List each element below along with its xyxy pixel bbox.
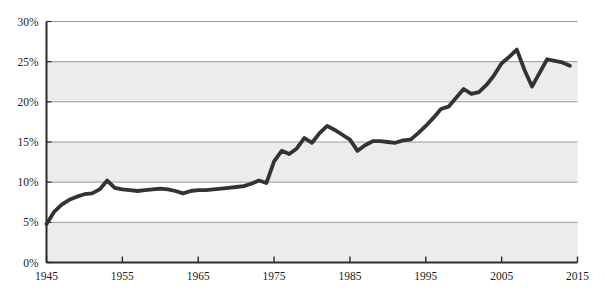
x-tick-label-2015: 2015 [566, 270, 589, 282]
gridline-group [47, 22, 578, 223]
x-tick-label-1965: 1965 [187, 270, 210, 282]
x-axis-tick-labels: 19451955196519751985199520052015 [35, 270, 589, 282]
y-tick-label-25: 25% [17, 56, 39, 68]
y-tick-label-20: 20% [17, 96, 39, 108]
x-tick-label-1985: 1985 [338, 270, 361, 282]
x-tick-label-1945: 1945 [35, 270, 58, 282]
y-tick-label-30: 30% [17, 16, 39, 28]
band-1 [47, 142, 578, 182]
y-tick-label-0: 0% [23, 257, 39, 269]
line-chart: 0%5%10%15%20%25%30% 19451955196519751985… [0, 0, 605, 298]
y-tick-label-5: 5% [23, 216, 39, 228]
x-tick-label-1975: 1975 [263, 270, 286, 282]
chart-container: 0%5%10%15%20%25%30% 19451955196519751985… [0, 0, 605, 298]
y-tick-label-10: 10% [17, 176, 39, 188]
x-tick-label-2005: 2005 [490, 270, 513, 282]
banding-group [47, 62, 578, 263]
x-tick-label-1955: 1955 [111, 270, 134, 282]
band-2 [47, 222, 578, 262]
y-axis-tick-labels: 0%5%10%15%20%25%30% [17, 16, 39, 269]
y-tick-label-15: 15% [17, 136, 39, 148]
x-tick-label-1995: 1995 [414, 270, 437, 282]
